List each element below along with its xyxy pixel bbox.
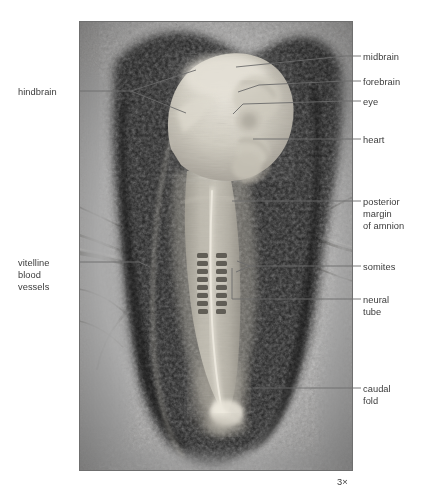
embryo-photo-canvas [79, 21, 353, 471]
anatomical-figure: midbrain forebrain eye heart posterior m… [0, 0, 430, 502]
magnification-label: 3× [337, 477, 348, 487]
label-neural-tube: neural tube [363, 295, 389, 319]
label-vitelline-blood-vessels: vitelline blood vessels [18, 258, 49, 293]
label-caudal-fold: caudal fold [363, 384, 391, 408]
label-midbrain: midbrain [363, 52, 399, 64]
label-hindbrain: hindbrain [18, 87, 57, 99]
label-somites: somites [363, 262, 395, 274]
label-heart: heart [363, 135, 384, 147]
label-posterior-margin-of-amnion: posterior margin of amnion [363, 197, 404, 232]
label-eye: eye [363, 97, 378, 109]
label-forebrain: forebrain [363, 77, 400, 89]
embryo-photograph [79, 21, 353, 471]
